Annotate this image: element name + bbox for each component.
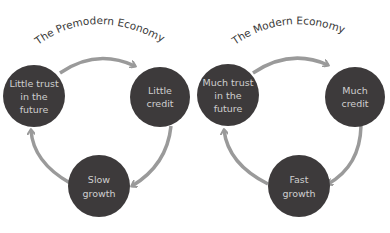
svg-text:Slow: Slow xyxy=(88,174,110,185)
modern-title: The Modern Economy xyxy=(229,14,347,47)
svg-text:growth: growth xyxy=(282,188,315,199)
arrow-credit-to-growth xyxy=(328,126,361,184)
arrow-trust-to-credit xyxy=(60,58,135,73)
svg-text:in the: in the xyxy=(214,90,241,101)
premodern-economy-diagram: The Premodern Economy Little trust in th… xyxy=(3,14,190,217)
arrow-credit-to-growth xyxy=(132,126,171,186)
economy-cycles-diagram: The Premodern Economy Little trust in th… xyxy=(0,0,390,233)
modern-economy-diagram: The Modern Economy Much trust in the fut… xyxy=(197,14,385,217)
arrow-trust-to-credit xyxy=(253,58,328,73)
svg-text:in the: in the xyxy=(20,91,47,102)
node-little-credit: Little credit xyxy=(130,67,190,127)
svg-text:future: future xyxy=(214,103,243,114)
svg-text:credit: credit xyxy=(146,98,173,109)
svg-text:Much trust: Much trust xyxy=(203,77,254,88)
node-fast-growth: Fast growth xyxy=(268,155,330,217)
svg-text:Much: Much xyxy=(342,85,367,96)
node-much-trust: Much trust in the future xyxy=(197,64,259,126)
premodern-title: The Premodern Economy xyxy=(32,14,167,47)
svg-text:future: future xyxy=(20,104,49,115)
svg-text:Little: Little xyxy=(148,85,172,96)
node-slow-growth: Slow growth xyxy=(68,155,130,217)
svg-text:Little trust: Little trust xyxy=(9,78,58,89)
node-much-credit: Much credit xyxy=(325,67,385,127)
arrow-growth-to-trust xyxy=(31,130,70,183)
svg-text:growth: growth xyxy=(82,188,115,199)
svg-text:credit: credit xyxy=(341,98,368,109)
node-little-trust: Little trust in the future xyxy=(3,65,65,127)
arrow-growth-to-trust xyxy=(224,130,268,184)
svg-text:Fast: Fast xyxy=(289,174,308,185)
